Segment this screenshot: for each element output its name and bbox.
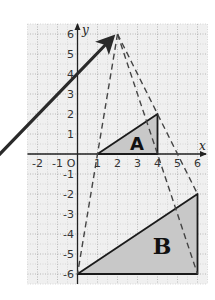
x-tick: 6: [194, 157, 201, 170]
y-tick: -4: [63, 228, 74, 241]
x-tick-labels: -2 -1 O 1 2 3 4 5 6: [32, 157, 201, 170]
enlargement-diagram: -2 -1 O 1 2 3 4 5 6 6 5 4 3 2 1 -1 -2 -3…: [0, 0, 215, 300]
y-tick: -6: [63, 268, 74, 281]
triangle-b-label: B: [153, 233, 172, 259]
y-tick: 1: [67, 128, 74, 141]
x-tick: 3: [134, 157, 141, 170]
y-tick: 5: [67, 48, 74, 61]
y-tick: -2: [63, 188, 74, 201]
y-tick: -5: [63, 248, 74, 261]
y-axis-label: y: [81, 23, 89, 37]
x-tick: -2: [32, 157, 43, 170]
y-tick: 6: [67, 28, 74, 41]
y-tick: 2: [67, 108, 74, 121]
y-tick: -3: [63, 208, 74, 221]
x-tick: 2: [114, 157, 121, 170]
x-tick: 1: [94, 157, 101, 170]
y-tick: -1: [63, 168, 74, 181]
x-tick: 5: [174, 157, 181, 170]
x-tick: 4: [154, 157, 161, 170]
triangle-a-label: A: [130, 133, 144, 154]
x-tick: -1: [52, 157, 63, 170]
x-axis-label: x: [199, 139, 206, 153]
y-tick: 3: [67, 88, 74, 101]
